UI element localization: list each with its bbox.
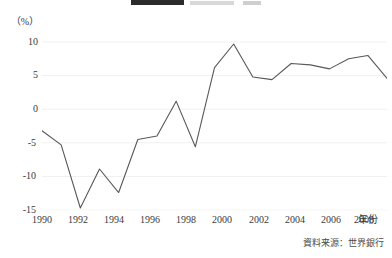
legend-swatch-icon [131,0,184,5]
chart-plot-area [42,36,387,214]
x-tick-label-2000: 2000 [205,215,239,225]
x-tick-label-1992: 1992 [61,215,95,225]
legend-faded-text-a [190,1,234,5]
y-tick-label-0: 0 [8,104,38,114]
source-note: 資料来源：世界銀行 [303,238,384,248]
x-tick-label-1996: 1996 [133,215,167,225]
x-axis-title: 年份 [358,215,378,225]
legend-strip [0,0,392,7]
x-tick-label-2006: 2006 [314,215,348,225]
data-series-line [42,44,387,208]
y-tick-label-10: 10 [8,37,38,47]
x-tick-label-2004: 2004 [278,215,312,225]
x-tick-label-1998: 1998 [169,215,203,225]
legend-faded-text-b [243,1,261,5]
x-tick-label-1994: 1994 [97,215,131,225]
y-axis-unit-label: （%） [11,13,39,28]
x-tick-label-2002: 2002 [242,215,276,225]
x-tick-label-1990: 1990 [25,215,59,225]
line-chart-svg [42,36,387,214]
y-tick-label-neg10: -10 [6,171,36,181]
y-tick-label-neg5: -5 [6,138,36,148]
y-tick-label-5: 5 [8,70,38,80]
